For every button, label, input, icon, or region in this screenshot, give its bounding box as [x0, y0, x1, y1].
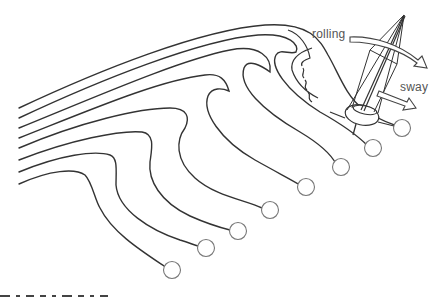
streamline-4 — [19, 75, 300, 185]
wave-curl — [292, 48, 318, 98]
wave-diagram: rolling sway — [0, 0, 436, 298]
streamline-8 — [19, 171, 164, 266]
rolling-label: rolling — [312, 27, 345, 41]
particle-circle-8 — [394, 120, 411, 137]
clipped-caption — [0, 291, 200, 298]
sway-label: sway — [400, 80, 428, 94]
streamline-7 — [19, 153, 198, 246]
particle-circle-5 — [298, 179, 315, 196]
diagram-canvas — [0, 0, 436, 298]
particle-circle-4 — [262, 202, 279, 219]
particle-circle-3 — [230, 223, 247, 240]
particle-circle-1 — [164, 262, 181, 279]
particle-circle-6 — [333, 159, 350, 176]
streamline-3 — [19, 49, 336, 164]
particle-circle-2 — [198, 240, 215, 257]
particle-circle-7 — [365, 140, 382, 157]
streamline-2 — [19, 35, 368, 146]
